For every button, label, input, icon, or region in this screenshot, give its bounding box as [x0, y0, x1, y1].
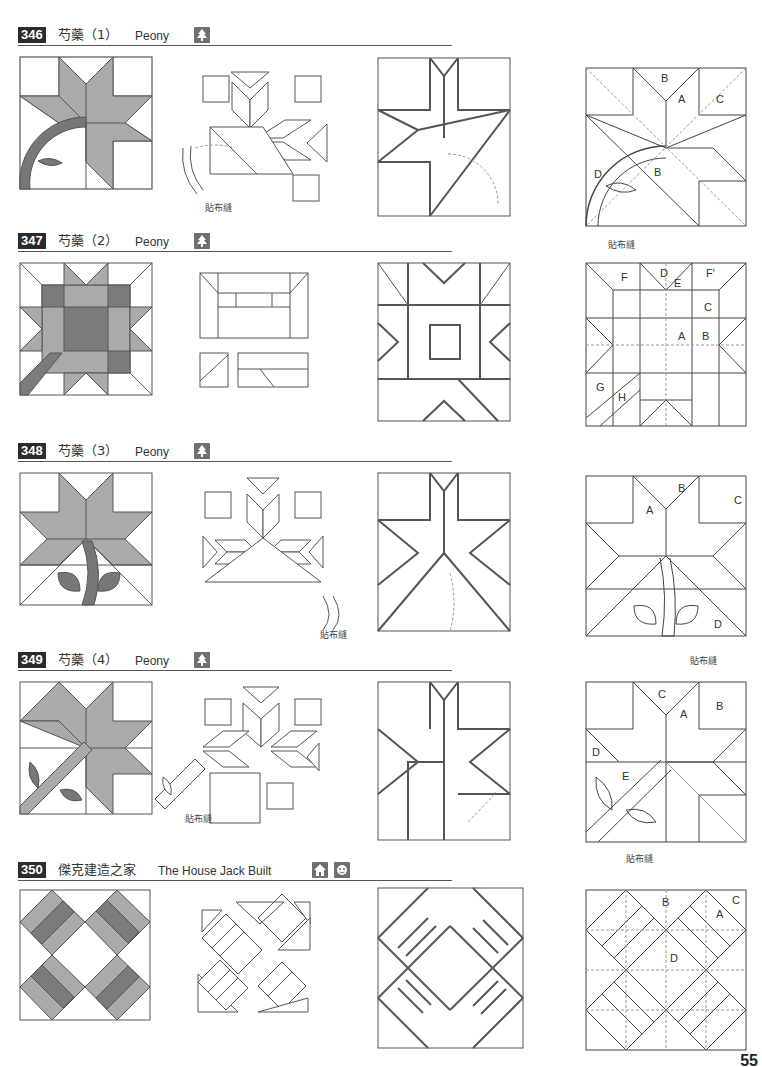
block-number: 346	[18, 27, 46, 43]
block-title-en: The House Jack Built	[158, 863, 271, 879]
svg-text:E: E	[622, 770, 629, 782]
block-346: 346 芍藥（1） Peony 貼布縫	[0, 0, 762, 245]
block-title-cn: 芍藥（4）	[58, 652, 118, 668]
piece-layout-diagram: 貼布縫	[195, 478, 365, 638]
svg-text:F': F'	[706, 267, 715, 279]
cutting-diagram: FD EF' CA BG H	[586, 263, 746, 428]
svg-text:C: C	[732, 894, 740, 906]
tree-icon	[194, 652, 210, 668]
finished-block	[20, 682, 152, 814]
cutting-diagram: CA BD E 貼布縫	[586, 682, 746, 877]
block-header: 347 芍藥（2） Peony	[18, 233, 452, 252]
piece-layout-diagram: 貼布縫	[155, 687, 330, 822]
piece-layout-diagram: 貼布縫	[175, 62, 335, 212]
tree-icon	[194, 27, 210, 43]
block-title-en: Peony	[135, 28, 169, 44]
seam-diagram	[378, 263, 510, 421]
cutting-diagram: BA CD B 貼布縫	[586, 58, 746, 238]
svg-text:C: C	[734, 494, 742, 506]
svg-text:D: D	[594, 168, 602, 180]
seam-diagram	[378, 682, 510, 840]
block-350: 350 傑克建造之家 The House Jack Built	[0, 862, 762, 1067]
svg-text:A: A	[678, 330, 686, 342]
svg-text:D: D	[592, 746, 600, 758]
finished-block	[20, 263, 152, 395]
svg-text:C: C	[658, 688, 666, 700]
svg-text:D: D	[670, 952, 678, 964]
block-347: 347 芍藥（2） Peony	[0, 228, 762, 443]
svg-text:D: D	[660, 267, 668, 279]
svg-text:B: B	[716, 700, 723, 712]
svg-text:H: H	[618, 391, 626, 403]
svg-text:A: A	[678, 93, 686, 105]
applique-label: 貼布縫	[320, 629, 347, 640]
finished-block	[20, 57, 152, 189]
block-349: 349 芍藥（4） Peony 貼布縫	[0, 652, 762, 852]
block-title-en: Peony	[135, 444, 169, 460]
block-title-en: Peony	[135, 653, 169, 669]
piece-layout-diagram	[200, 273, 310, 388]
svg-text:B: B	[654, 166, 661, 178]
block-number: 350	[18, 862, 46, 878]
block-header: 348 芍藥（3） Peony	[18, 443, 452, 462]
svg-text:B: B	[702, 330, 709, 342]
block-title-cn: 芍藥（1）	[58, 27, 118, 43]
seam-diagram	[378, 888, 523, 1048]
house-icon	[312, 862, 328, 878]
svg-text:C: C	[716, 93, 724, 105]
block-title-cn: 芍藥（3）	[58, 443, 118, 459]
svg-text:C: C	[704, 301, 712, 313]
cutting-diagram: BC AD	[586, 890, 746, 1055]
block-number: 348	[18, 443, 46, 459]
svg-text:B: B	[678, 482, 685, 494]
page-number: 55	[740, 1052, 758, 1067]
svg-text:A: A	[646, 504, 654, 516]
svg-text:A: A	[716, 908, 724, 920]
svg-text:E: E	[674, 277, 681, 289]
block-header: 350 傑克建造之家 The House Jack Built	[18, 862, 452, 881]
block-title-cn: 芍藥（2）	[58, 233, 118, 249]
cutting-diagram: BA CD 貼布縫	[586, 476, 746, 676]
seam-diagram	[378, 473, 510, 631]
svg-text:G: G	[596, 381, 605, 393]
svg-text:D: D	[714, 618, 722, 630]
svg-text:F: F	[621, 271, 628, 283]
tree-icon	[194, 443, 210, 459]
block-348: 348 芍藥（3） Peony 貼布縫	[0, 443, 762, 643]
block-title-cn: 傑克建造之家	[58, 862, 136, 878]
block-number: 347	[18, 233, 46, 249]
block-title-en: Peony	[135, 234, 169, 250]
svg-text:B: B	[661, 72, 668, 84]
block-header: 346 芍藥（1） Peony	[18, 27, 452, 46]
svg-text:A: A	[680, 708, 688, 720]
face-icon	[334, 862, 350, 878]
seam-diagram	[378, 58, 510, 216]
piece-layout-diagram	[198, 902, 310, 1012]
block-header: 349 芍藥（4） Peony	[18, 652, 452, 671]
svg-text:B: B	[662, 896, 669, 908]
block-number: 349	[18, 652, 46, 668]
finished-block	[20, 473, 152, 605]
applique-label: 貼布縫	[185, 813, 212, 824]
applique-label: 貼布縫	[205, 202, 232, 213]
tree-icon	[194, 233, 210, 249]
finished-block	[20, 890, 150, 1020]
